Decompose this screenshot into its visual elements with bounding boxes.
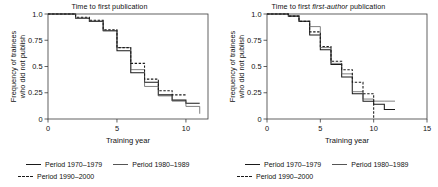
- series-line-2: [267, 14, 395, 101]
- y-axis-label-line2: who did not publish: [18, 35, 27, 99]
- figure-survival-curves: Time to first publication 051000.250.50.…: [0, 0, 438, 187]
- legend-label-period-1970-1979: Period 1970–1979: [264, 160, 321, 169]
- legend-row-1: Period 1970–1979 Period 1980–1989: [0, 158, 219, 170]
- legend-row-1: Period 1970–1979 Period 1980–1989: [219, 158, 438, 170]
- x-axis-label: Training year: [325, 136, 370, 145]
- y-tick-label: 0.25: [247, 88, 261, 97]
- y-axis-label-line2: who did not publish: [237, 35, 246, 99]
- series-line-3: [48, 14, 186, 95]
- legend-right: Period 1970–1979 Period 1980–1989 Period…: [219, 158, 438, 182]
- legend-entry-period-1990-2000: Period 1990–2000: [18, 172, 94, 181]
- x-tick-label: 5: [318, 124, 322, 133]
- plot-svg-right: 05101500.250.50.751.0Training yearFreque…: [219, 0, 438, 150]
- legend-label-period-1980-1989: Period 1980–1989: [351, 160, 408, 169]
- legend-entry-period-1970-1979: Period 1970–1979: [26, 160, 102, 169]
- y-tick-label: 0: [257, 115, 261, 124]
- x-tick-label: 5: [115, 124, 119, 133]
- plot-frame: [48, 14, 208, 119]
- y-tick-label: 0.75: [247, 36, 261, 45]
- x-tick-label: 0: [265, 124, 269, 133]
- plot-svg-left: 051000.250.50.751.0Training yearFrequenc…: [0, 0, 219, 150]
- legend-swatch-solid-thick-icon: [26, 164, 41, 165]
- legend-label-period-1980-1989: Period 1980–1989: [132, 160, 189, 169]
- legend-row-2: Period 1990–2000: [0, 170, 219, 182]
- series-line-1: [48, 14, 200, 103]
- legend-swatch-solid-thin-icon: [332, 164, 347, 165]
- legend-entry-period-1980-1989: Period 1980–1989: [332, 160, 408, 169]
- y-tick-label: 1.0: [251, 10, 261, 19]
- y-axis-label-line1: Frequency of trainees: [9, 30, 18, 102]
- x-tick-label: 0: [46, 124, 50, 133]
- y-tick-label: 0.5: [251, 62, 261, 71]
- legend-swatch-solid-thin-icon: [113, 164, 128, 165]
- y-tick-label: 0.5: [32, 62, 42, 71]
- x-tick-label: 10: [370, 124, 378, 133]
- legend-entry-period-1970-1979: Period 1970–1979: [245, 160, 321, 169]
- legend-label-period-1990-2000: Period 1990–2000: [256, 172, 313, 181]
- y-tick-label: 0: [38, 115, 42, 124]
- y-tick-label: 0.75: [28, 36, 42, 45]
- panel-time-to-first-publication: Time to first publication 051000.250.50.…: [0, 0, 219, 187]
- legend-swatch-dashed-icon: [237, 176, 252, 177]
- legend-label-period-1990-2000: Period 1990–2000: [37, 172, 94, 181]
- y-axis-label-line1: Frequency of trainees: [228, 30, 237, 102]
- x-axis-label: Training year: [106, 136, 151, 145]
- legend-swatch-solid-thick-icon: [245, 164, 260, 165]
- legend-label-period-1970-1979: Period 1970–1979: [45, 160, 102, 169]
- legend-left: Period 1970–1979 Period 1980–1989 Period…: [0, 158, 219, 182]
- legend-row-2: Period 1990–2000: [219, 170, 438, 182]
- y-tick-label: 1.0: [32, 10, 42, 19]
- legend-swatch-dashed-icon: [18, 176, 33, 177]
- panel-time-to-first-first-author-publication: Time to first first-author publication 0…: [219, 0, 438, 187]
- series-line-2: [48, 14, 200, 114]
- plot-area-right: 05101500.250.50.751.0Training yearFreque…: [219, 0, 438, 150]
- legend-entry-period-1990-2000: Period 1990–2000: [237, 172, 313, 181]
- x-tick-label: 15: [423, 124, 431, 133]
- x-tick-label: 10: [182, 124, 190, 133]
- plot-frame: [267, 14, 427, 119]
- legend-entry-period-1980-1989: Period 1980–1989: [113, 160, 189, 169]
- y-tick-label: 0.25: [28, 88, 42, 97]
- plot-area-left: 051000.250.50.751.0Training yearFrequenc…: [0, 0, 219, 150]
